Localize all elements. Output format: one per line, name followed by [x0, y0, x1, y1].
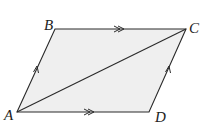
diagram-canvas: A B C D — [0, 0, 209, 127]
vertex-label-a: A — [3, 107, 14, 123]
parallelogram-diagram: A B C D — [0, 0, 209, 127]
vertex-label-c: C — [189, 20, 200, 36]
vertex-label-d: D — [154, 109, 166, 125]
vertex-label-b: B — [44, 17, 53, 33]
